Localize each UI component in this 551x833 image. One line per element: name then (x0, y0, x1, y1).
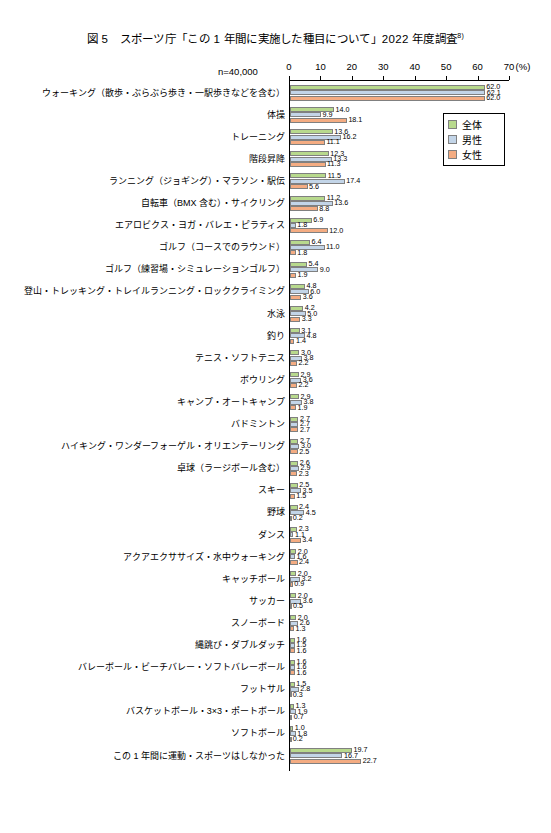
x-tick-label: 20 (347, 61, 358, 72)
x-tick-mark (509, 76, 510, 80)
x-tick-mark (383, 76, 384, 80)
bar-value-label: 4.5 (306, 510, 316, 515)
bar-male (290, 157, 332, 162)
bar-female (290, 118, 347, 123)
bar-value-label: 0.2 (293, 736, 303, 741)
bar-value-label: 2.2 (298, 360, 308, 365)
bar-total (290, 306, 303, 311)
bar-total (290, 505, 298, 510)
legend-label: 全体 (462, 117, 482, 132)
bar-total (290, 461, 298, 466)
figure-title-superscript: 8) (457, 32, 464, 39)
bar-total (290, 196, 325, 201)
category-label: テニス・ソフトテニス (0, 354, 285, 363)
bar-value-label: 9.0 (320, 267, 330, 272)
bar-value-label: 62.0 (486, 95, 500, 100)
bar-female (290, 427, 298, 432)
bar-total (290, 262, 307, 267)
category-label: トレーニング (0, 133, 285, 142)
bar-value-label: 1.9 (297, 272, 307, 277)
bar-value-label: 16.7 (344, 753, 358, 758)
bar-value-label: 1.3 (296, 626, 306, 631)
bar-female (290, 405, 296, 410)
bar-value-label: 2.2 (298, 382, 308, 387)
bar-value-label: 6.4 (312, 239, 322, 244)
bar-total (290, 328, 300, 333)
bar-total (290, 372, 299, 377)
bar-male (290, 444, 299, 449)
x-axis-unit-label: (%) (516, 61, 531, 72)
bar-value-label: 4.8 (307, 333, 317, 338)
bar-total (290, 571, 296, 576)
x-tick-mark (478, 76, 479, 80)
category-label: サッカー (0, 597, 285, 606)
figure-container: 図 5 スポーツ庁「この 1 年間に実施した種目について」2022 年度調査8)… (0, 0, 551, 833)
bar-total (290, 593, 296, 598)
bar-value-label: 22.7 (363, 758, 377, 763)
bar-male (290, 643, 295, 648)
bar-total (290, 483, 298, 488)
x-tick-label: 30 (378, 61, 389, 72)
bar-female (290, 96, 485, 101)
bar-total (290, 173, 326, 178)
bar-male (290, 554, 295, 559)
bar-total (290, 129, 333, 134)
bar-value-label: 12.0 (329, 228, 343, 233)
bar-female (290, 648, 295, 653)
bar-value-label: 3.3 (302, 316, 312, 321)
category-label: スノーボード (0, 619, 285, 628)
legend-swatch-icon (448, 120, 457, 129)
bar-value-label: 1.6 (297, 670, 307, 675)
x-tick-label: 40 (409, 61, 420, 72)
bar-value-label: 0.5 (293, 603, 303, 608)
category-label: 野球 (0, 508, 285, 517)
category-label: 縄跳び・ダブルダッチ (0, 641, 285, 650)
bar-female (290, 140, 325, 145)
legend-item: 男性 (448, 132, 500, 147)
legend-label: 男性 (462, 132, 482, 147)
bar-total (290, 748, 352, 753)
bar-male (290, 665, 295, 670)
bar-value-label: 5.6 (309, 184, 319, 189)
x-tick-mark (415, 76, 416, 80)
bar-value-label: 8.8 (319, 206, 329, 211)
bar-total (290, 682, 295, 687)
category-label: ハイキング・ワンダーフォーゲル・オリエンテーリング (0, 442, 285, 451)
bar-female (290, 295, 301, 300)
bar-female (290, 626, 294, 631)
x-tick-label: 10 (315, 61, 326, 72)
bar-total (290, 660, 295, 665)
x-tick-label: 70 (504, 61, 515, 72)
bar-total (290, 549, 296, 554)
bar-value-label: 1.5 (296, 493, 306, 498)
bar-male (290, 90, 485, 95)
bar-female (290, 715, 292, 720)
bar-female (290, 471, 297, 476)
bar-value-label: 1.9 (297, 405, 307, 410)
category-label: 釣り (0, 332, 285, 341)
category-label: エアロビクス・ヨガ・バレエ・ピラティス (0, 221, 285, 230)
x-axis-line (289, 80, 509, 81)
legend-swatch-icon (448, 135, 457, 144)
bar-value-label: 1.8 (297, 222, 307, 227)
bar-female (290, 604, 292, 609)
bar-total (290, 85, 485, 90)
bar-total (290, 615, 296, 620)
bar-value-label: 14.0 (336, 107, 350, 112)
bar-total (290, 704, 294, 709)
category-label: 登山・トレッキング・トレイルランニング・ロッククライミング (0, 287, 285, 296)
category-label: ゴルフ（練習場・シミュレーションゴルフ） (0, 265, 285, 274)
category-label: キャッチボール (0, 575, 285, 584)
category-label: この 1 年間に運動・スポーツはしなかった (0, 752, 285, 761)
bar-male (290, 532, 293, 537)
bar-female (290, 538, 301, 543)
bar-female (290, 692, 292, 697)
category-label: ランニング（ジョギング）・マラソン・駅伝 (0, 177, 285, 186)
category-label: ボウリング (0, 376, 285, 385)
category-label: フットサル (0, 685, 285, 694)
bar-value-label: 6.9 (313, 217, 323, 222)
x-tick-label: 50 (441, 61, 452, 72)
bar-female (290, 582, 293, 587)
bar-female (290, 516, 292, 521)
bar-value-label: 18.1 (348, 117, 362, 122)
